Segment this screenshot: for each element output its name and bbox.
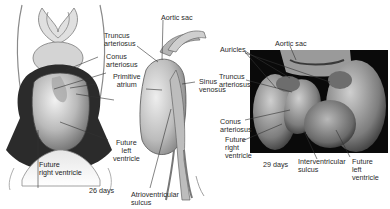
label-aortic-sac-b: Aortic sac bbox=[161, 14, 193, 22]
label-future-left-ventricle-c: Future left ventricle bbox=[352, 158, 390, 182]
lateral-heart-drawing bbox=[140, 31, 206, 200]
label-auricles: Auricles bbox=[220, 46, 246, 54]
label-truncus-arteriosus-a: Truncus arteriosus bbox=[104, 32, 136, 48]
label-future-right-ventricle-a: Future right ventricle bbox=[39, 161, 82, 177]
label-interventricular-sulcus: Interventricular sulcus bbox=[298, 158, 346, 174]
figure-artwork bbox=[0, 0, 390, 209]
label-future-right-ventricle-c: Future right ventricle bbox=[225, 136, 252, 160]
label-atrioventricular-sulcus: Atrioventricular sulcus bbox=[131, 191, 179, 207]
label-primitive-atrium: Primitive atrium bbox=[113, 73, 141, 89]
sem-micrograph bbox=[250, 50, 388, 153]
label-aortic-sac-c: Aortic sac bbox=[275, 40, 307, 48]
label-truncus-arteriosus-c: Truncus arteriosus bbox=[219, 73, 251, 89]
caption-26-days: 26 days bbox=[89, 187, 114, 195]
label-future-left-ventricle-a: Future left ventricle bbox=[113, 139, 140, 163]
caption-29-days: 29 days bbox=[263, 161, 288, 169]
label-conus-arteriosus-a: Conus arteriosus bbox=[106, 53, 138, 69]
label-conus-arteriosus-c: Conus arteriosus bbox=[220, 118, 252, 134]
